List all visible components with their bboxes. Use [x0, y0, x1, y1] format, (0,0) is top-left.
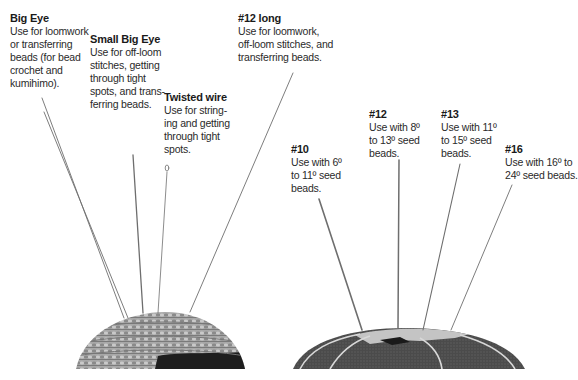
label-desc: Use with 8º to 13º seed beads. — [369, 121, 439, 160]
label-size-13: #13 Use with 11º to 15º seed beads. — [441, 107, 511, 160]
label-twisted-wire: Twisted wire Use for string- ing and get… — [164, 90, 254, 156]
size-13-needle — [423, 164, 460, 330]
twisted-wire-needle — [158, 172, 167, 313]
felt-pincushion — [293, 328, 525, 369]
size-16-needle — [451, 185, 512, 330]
label-desc: Use for string- ing and getting through … — [164, 104, 254, 156]
label-desc: Use with 6º to 11º seed beads. — [291, 156, 361, 195]
label-size-12: #12 Use with 8º to 13º seed beads. — [369, 107, 439, 160]
label-size-16: #16 Use with 16º to 24º seed beads. — [505, 142, 578, 182]
label-size-10: #10 Use with 6º to 11º seed beads. — [291, 142, 361, 195]
label-title: Small Big Eye — [90, 32, 190, 46]
label-title: #13 — [441, 107, 511, 121]
label-title: #12 — [369, 107, 439, 121]
label-title: Big Eye — [10, 11, 110, 25]
small-big-eye-needle — [133, 155, 143, 313]
label-title: #12 long — [238, 11, 378, 25]
label-title: Twisted wire — [164, 90, 254, 104]
crochet-pincushion — [76, 312, 245, 369]
twisted-wire-loop — [165, 165, 169, 171]
size-10-needle — [319, 199, 362, 330]
label-desc: Use with 16º to 24º seed beads. — [505, 156, 578, 182]
label-desc: Use for loomwork, off-loom stitches, and… — [238, 25, 378, 64]
label-title: #16 — [505, 142, 578, 156]
label-title: #10 — [291, 142, 361, 156]
label-12-long: #12 long Use for loomwork, off-loom stit… — [238, 11, 378, 64]
size-12-needle — [398, 160, 399, 328]
label-desc: Use with 11º to 15º seed beads. — [441, 121, 511, 160]
big-eye-needle-2 — [44, 112, 128, 318]
